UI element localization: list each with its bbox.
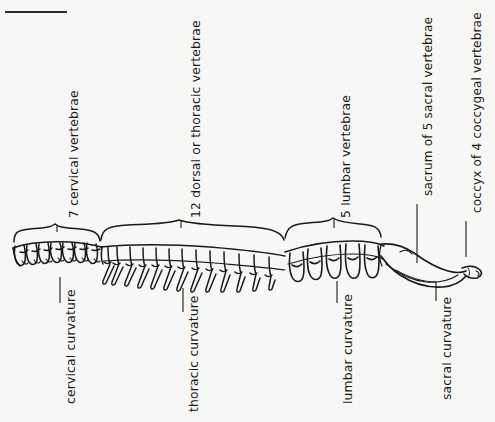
leader-lines-group xyxy=(57,204,466,312)
coccyx-tip xyxy=(476,271,479,276)
thoracic-vertebra xyxy=(265,257,275,290)
thoracic-vertebrae-group xyxy=(101,245,285,292)
lumbar-vertebra xyxy=(289,252,304,282)
label-sacral-curvature: sacral curvature xyxy=(441,297,453,400)
figure-canvas: 7 cervical vertebrae 12 dorsal or thorac… xyxy=(0,0,495,422)
lumbar-vertebra xyxy=(326,245,341,278)
label-cervical-curvature: cervical curvature xyxy=(65,289,77,404)
thoracic-vertebra xyxy=(191,250,202,292)
thoracic-vertebra xyxy=(220,252,230,292)
label-lumbar-count: 5 lumbar vertebrae xyxy=(340,95,352,218)
label-coccyx-count: coccyx of 4 coccygeal vertebrae xyxy=(471,12,483,213)
cervical-vertebrae-group xyxy=(13,242,101,266)
thoracic-brace xyxy=(101,220,284,240)
thoracic-vertebra xyxy=(206,251,216,292)
lumbar-top-contour xyxy=(285,241,384,252)
thoracic-top-contour xyxy=(101,245,285,256)
thoracic-vertebra xyxy=(235,254,245,292)
lumbar-vertebra xyxy=(307,248,322,280)
thoracic-vertebra xyxy=(164,249,175,290)
sacrum-group xyxy=(380,244,466,287)
label-lumbar-curvature: lumbar curvature xyxy=(342,294,354,404)
lumbar-vertebra xyxy=(345,244,360,278)
sacrum-upper-contour xyxy=(381,244,466,273)
coccyx-segment-line xyxy=(468,268,470,277)
lumbar-brace xyxy=(285,218,381,238)
lumbar-vertebrae-group xyxy=(285,241,384,282)
label-thoracic-count: 12 dorsal or thoracic vertebrae xyxy=(190,20,202,218)
thoracic-vertebra xyxy=(101,247,114,284)
label-sacrum-count: sacrum of 5 sacral vertebrae xyxy=(422,17,434,196)
label-thoracic-curvature: thoracic curvature xyxy=(188,295,200,412)
thoracic-vertebra xyxy=(250,255,260,291)
thoracic-vertebra xyxy=(125,247,136,286)
thoracic-vertebra xyxy=(177,249,188,291)
lumbar-vertebra xyxy=(364,245,379,278)
thoracic-vertebra xyxy=(138,248,149,288)
label-cervical-count: 7 cervical vertebrae xyxy=(68,90,80,218)
thoracic-vertebra xyxy=(151,248,162,289)
braces-group xyxy=(14,218,381,242)
